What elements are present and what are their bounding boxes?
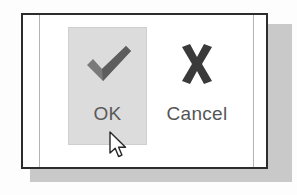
- ok-button-label: OK: [93, 104, 121, 123]
- screenshot-root: OK Cancel: [0, 0, 297, 195]
- dialog-button-row: OK Cancel: [23, 15, 266, 167]
- check-icon: [81, 38, 135, 90]
- ok-button[interactable]: OK: [68, 27, 147, 145]
- dialog-panel: OK Cancel: [21, 13, 268, 169]
- cancel-button[interactable]: Cancel: [155, 27, 239, 145]
- cancel-button-label: Cancel: [167, 104, 228, 123]
- x-icon: [170, 38, 224, 90]
